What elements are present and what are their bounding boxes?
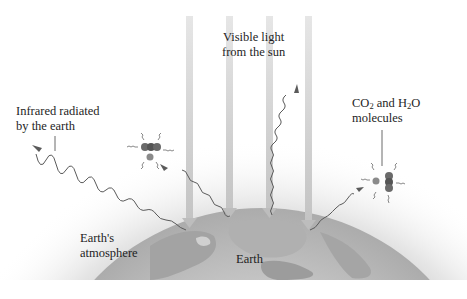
sunlight-label: Visible light from the sun — [222, 30, 285, 60]
earth-label: Earth — [236, 252, 263, 267]
atmosphere-label: Earth's atmosphere — [80, 231, 138, 261]
greenhouse-diagram: Visible light from the sun Infrared radi… — [0, 0, 467, 299]
molecules-label: CO2 and H2O molecules — [352, 96, 420, 126]
infrared-label: Infrared radiated by the earth — [16, 104, 100, 134]
